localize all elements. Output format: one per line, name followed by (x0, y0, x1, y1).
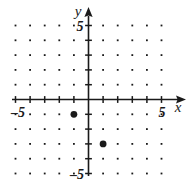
x-axis-label: x (174, 99, 182, 115)
axis-label-layer: y x 5 –5 –5 5 (0, 0, 194, 192)
x-axis-tick-label-negative: –5 (10, 105, 25, 120)
y-axis-tick-label-negative: –5 (69, 167, 84, 182)
y-axis-label: y (73, 3, 82, 19)
y-axis-tick-label-positive: 5 (77, 19, 84, 34)
coordinate-plane-figure: y x 5 –5 –5 5 (0, 0, 194, 192)
x-axis-tick-label-positive: 5 (159, 105, 166, 120)
